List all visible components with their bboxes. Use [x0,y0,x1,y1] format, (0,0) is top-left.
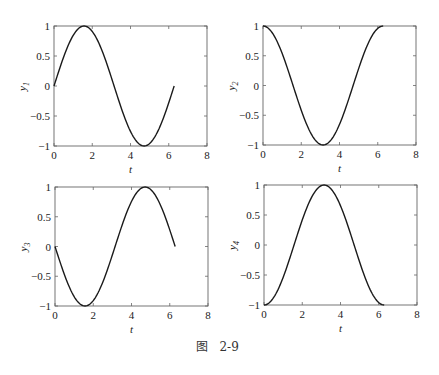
y-tick-label: 1 [46,181,52,193]
y-tick-label: −0.5 [31,270,51,282]
y-tick-label: −0.5 [240,269,260,281]
y-tick-label: 0 [255,239,261,251]
y-tick-label: 1 [254,20,260,32]
y-tick-label: 0.5 [36,50,50,62]
x-tick-label: 0 [52,309,58,321]
data-line [54,26,174,146]
x-tick-label: 2 [91,309,97,321]
x-tick-label: 8 [204,149,210,161]
y-tick-label: −1 [247,139,259,151]
figure-2-9: 02468−1−0.500.51ty102468−1−0.500.51ty202… [0,0,439,375]
x-tick-label: 4 [128,149,134,161]
x-tick-label: 0 [51,149,57,161]
plot-frame [55,187,208,306]
x-tick-label: 6 [167,309,173,321]
y-tick-label: −0.5 [239,109,259,121]
plot-frame [263,26,416,145]
x-tick-label: 6 [166,149,172,161]
x-tick-label: 2 [90,149,96,161]
y-tick-label: −0.5 [30,110,50,122]
y-tick-label: 0.5 [246,209,260,221]
x-tick-label: 4 [129,309,135,321]
y-tick-label: 0 [45,80,51,92]
y-tick-label: −1 [248,299,260,311]
x-tick-label: 0 [261,308,267,320]
subplot-3: 02468−1−0.500.51ty3 [17,181,211,335]
x-axis-label: t [338,162,342,174]
y-axis-label: y1 [16,82,31,92]
y-tick-label: 0 [46,241,52,253]
x-tick-label: 2 [299,148,305,160]
data-line [263,26,383,145]
x-tick-label: 8 [414,308,420,320]
x-tick-label: 4 [337,148,343,160]
plot-frame [54,26,207,146]
x-tick-label: 0 [260,148,266,160]
y-tick-label: −1 [38,140,50,152]
x-tick-label: 2 [300,308,306,320]
y-tick-label: 1 [255,179,261,191]
y-tick-label: 0 [254,80,260,92]
x-axis-label: t [339,322,343,334]
x-axis-label: t [129,163,133,175]
x-tick-label: 6 [376,308,382,320]
y-tick-label: 1 [45,20,51,32]
y-tick-label: −1 [39,300,51,312]
figure-caption: 图 2-9 [196,337,239,354]
x-tick-label: 4 [338,308,344,320]
y-tick-label: 0.5 [245,50,259,62]
y-axis-label: y3 [17,243,32,253]
x-tick-label: 8 [205,309,211,321]
x-axis-label: t [130,323,134,335]
subplot-2: 02468−1−0.500.51ty2 [225,20,419,174]
data-line [55,187,175,306]
subplot-1: 02468−1−0.500.51ty1 [16,20,210,175]
plot-frame [264,185,417,305]
data-line [264,185,384,305]
subplot-4: 02468−1−0.500.51ty4 [226,179,420,334]
x-tick-label: 8 [413,148,419,160]
y-axis-label: y4 [226,241,241,251]
y-tick-label: 0.5 [37,211,51,223]
y-axis-label: y2 [225,82,240,92]
x-tick-label: 6 [375,148,381,160]
